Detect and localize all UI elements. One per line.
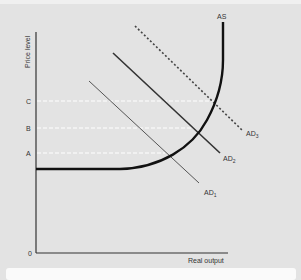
origin-label: 0 [28, 250, 32, 257]
as-label: AS [217, 13, 227, 20]
x-axis-label: Real output [188, 257, 224, 265]
ad3-label: AD3 [246, 130, 259, 139]
ad3-curve [135, 26, 243, 131]
price-level-label-c: C [26, 98, 31, 105]
as-curve [36, 22, 223, 169]
ad2-curve [113, 53, 220, 153]
y-axis-label: Price level [24, 35, 31, 68]
price-level-label-a: A [26, 150, 31, 157]
ad1-curve [89, 81, 199, 183]
ad1-label: AD1 [204, 189, 217, 198]
ad2-label: AD2 [223, 155, 236, 164]
bottom-panel [6, 268, 296, 280]
price-level-label-b: B [26, 125, 31, 132]
